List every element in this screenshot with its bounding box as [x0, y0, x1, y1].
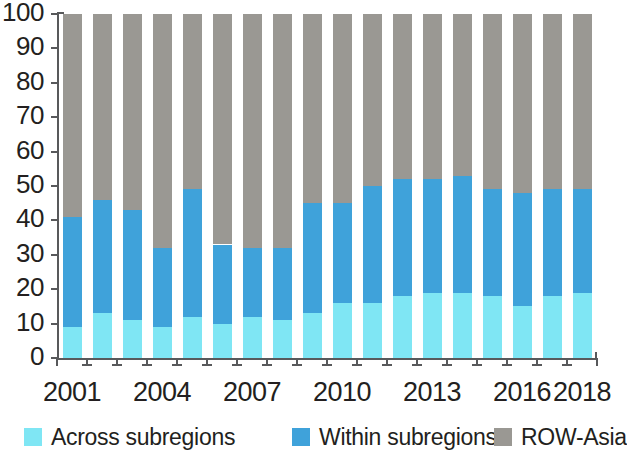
legend-swatch-icon: [292, 428, 310, 446]
x-axis-tick-label: 2016: [493, 377, 551, 407]
bar-segment-across-subregions: [213, 324, 232, 358]
bar-segment-row-asia: [363, 14, 382, 186]
x-axis-tick-foot: [112, 364, 122, 366]
x-axis-tick-foot: [232, 364, 242, 366]
bar-segment-across-subregions: [63, 327, 82, 358]
bar-2006: [213, 14, 232, 358]
bar-segment-across-subregions: [123, 320, 142, 358]
y-axis-tick-label: 10: [16, 309, 44, 335]
bar-2005: [183, 14, 202, 358]
bar-segment-row-asia: [183, 14, 202, 189]
bar-segment-row-asia: [243, 14, 262, 248]
legend-swatch-icon: [24, 428, 42, 446]
bar-segment-across-subregions: [153, 327, 172, 358]
bar-segment-within-subregions: [213, 245, 232, 324]
bar-segment-across-subregions: [303, 313, 322, 358]
bar-segment-row-asia: [303, 14, 322, 203]
legend-item-within-subregions[interactable]: Within subregions: [292, 424, 497, 450]
x-axis-tick-label: 2018: [553, 377, 611, 407]
bar-2008: [273, 14, 292, 358]
x-axis-tick-foot: [562, 364, 572, 366]
bar-segment-within-subregions: [333, 203, 352, 303]
x-axis-tick-foot: [292, 364, 302, 366]
bar-segment-row-asia: [273, 14, 292, 248]
bar-segment-row-asia: [453, 14, 472, 176]
bar-2004: [153, 14, 172, 358]
x-axis-tick-label: 2001: [43, 377, 101, 407]
x-axis-tick-foot: [532, 364, 542, 366]
x-axis-tick-foot: [352, 364, 362, 366]
y-axis-tick-label: 40: [16, 205, 44, 231]
x-axis-tick-foot: [472, 364, 482, 366]
bar-2011: [363, 14, 382, 358]
y-axis-tick-label: 50: [16, 171, 44, 197]
bar-segment-row-asia: [573, 14, 592, 189]
bar-segment-row-asia: [213, 14, 232, 244]
bar-segment-within-subregions: [363, 186, 382, 303]
x-axis-tick: [596, 358, 598, 366]
bar-2012: [393, 14, 412, 358]
bar-segment-row-asia: [543, 14, 562, 189]
bar-segment-across-subregions: [573, 293, 592, 358]
bar-segment-row-asia: [333, 14, 352, 203]
y-axis-tick-label: 90: [16, 33, 44, 59]
bar-segment-row-asia: [423, 14, 442, 179]
x-axis-tick-label: 2010: [313, 377, 371, 407]
x-axis-tick-foot: [262, 364, 272, 366]
bar-segment-within-subregions: [513, 193, 532, 307]
bar-segment-across-subregions: [483, 296, 502, 358]
bar-segment-across-subregions: [393, 296, 412, 358]
legend-label: Across subregions: [51, 425, 235, 449]
y-axis-tick-label: 30: [16, 240, 44, 266]
bar-2007: [243, 14, 262, 358]
bar-2015: [483, 14, 502, 358]
y-axis-tick-label: 80: [16, 68, 44, 94]
bar-segment-row-asia: [393, 14, 412, 179]
bar-2014: [453, 14, 472, 358]
x-axis-tick-label: 2007: [223, 377, 281, 407]
bar-segment-across-subregions: [93, 313, 112, 358]
bar-segment-within-subregions: [543, 189, 562, 296]
x-axis-tick-label: 2004: [133, 377, 191, 407]
chart-legend: Across subregionsWithin subregionsROW-As…: [24, 424, 599, 450]
bar-segment-across-subregions: [423, 293, 442, 358]
legend-label: Within subregions: [319, 425, 497, 449]
bar-segment-across-subregions: [363, 303, 382, 358]
x-axis-tick-foot: [202, 364, 212, 366]
y-axis-tick-label: 20: [16, 274, 44, 300]
x-axis-tick-foot: [502, 364, 512, 366]
bar-segment-across-subregions: [543, 296, 562, 358]
bar-segment-within-subregions: [483, 189, 502, 296]
x-axis-tick: [56, 358, 58, 366]
bar-segment-within-subregions: [393, 179, 412, 296]
legend-item-row-asia[interactable]: ROW-Asia: [494, 424, 627, 450]
bar-segment-within-subregions: [573, 189, 592, 292]
bar-segment-within-subregions: [273, 248, 292, 320]
bar-segment-within-subregions: [153, 248, 172, 327]
bar-segment-row-asia: [123, 14, 142, 210]
x-axis-tick-foot: [412, 364, 422, 366]
legend-label: ROW-Asia: [521, 425, 627, 449]
bar-segment-row-asia: [93, 14, 112, 200]
plot-area: [57, 14, 597, 358]
bar-segment-within-subregions: [93, 200, 112, 314]
bar-2009: [303, 14, 322, 358]
bar-segment-within-subregions: [63, 217, 82, 327]
bar-segment-across-subregions: [243, 317, 262, 358]
x-axis-tick-foot: [82, 364, 92, 366]
bar-segment-row-asia: [63, 14, 82, 217]
bar-segment-within-subregions: [303, 203, 322, 313]
bar-2017: [543, 14, 562, 358]
bar-segment-across-subregions: [273, 320, 292, 358]
bar-2002: [93, 14, 112, 358]
bar-segment-across-subregions: [333, 303, 352, 358]
legend-item-across-subregions[interactable]: Across subregions: [24, 424, 235, 450]
bar-segment-row-asia: [153, 14, 172, 248]
bar-segment-row-asia: [483, 14, 502, 189]
y-axis-tick-label: 100: [2, 0, 44, 25]
bar-2003: [123, 14, 142, 358]
x-axis-tick-foot: [322, 364, 332, 366]
bar-segment-row-asia: [513, 14, 532, 193]
x-axis-tick-foot: [172, 364, 182, 366]
